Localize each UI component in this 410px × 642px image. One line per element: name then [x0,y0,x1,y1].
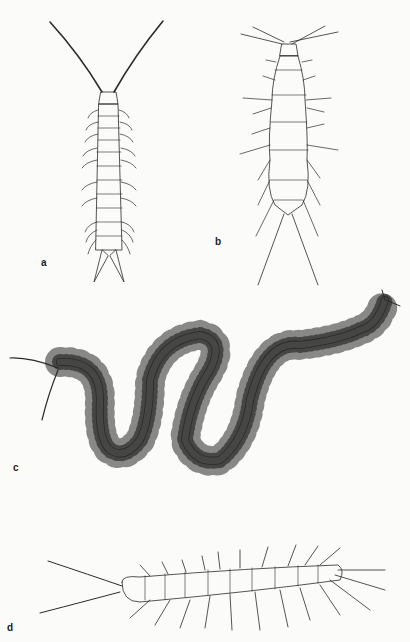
figure-label-a: a [41,257,47,268]
figure-label-b: b [215,236,221,247]
line-drawings [0,0,410,642]
figure-a-drawing [50,21,163,282]
figure-label-c: c [13,462,19,473]
figure-b-drawing [240,26,338,285]
figure-d-drawing [40,545,385,630]
figure-label-d: d [7,622,13,633]
figure-c-drawing [10,290,400,461]
illustration-plate: a b c d [0,0,410,642]
